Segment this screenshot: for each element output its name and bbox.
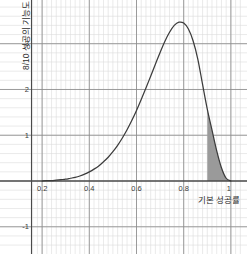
y-tick-label: 2 bbox=[25, 85, 29, 94]
y-tick-label: -1 bbox=[22, 222, 29, 231]
chart-container: 0.20.40.60.81 -1123 기본 성공률8/10 성공의 기능도 bbox=[0, 0, 247, 254]
y-axis-title: 8/10 성공의 기능도 bbox=[21, 1, 31, 70]
x-tick-label: 0.4 bbox=[84, 184, 94, 193]
x-tick-label: 0.6 bbox=[131, 184, 141, 193]
x-tick-label: 1 bbox=[227, 184, 231, 193]
shaded-area bbox=[207, 109, 231, 181]
x-axis-title: 기본 성공률 bbox=[198, 195, 240, 205]
chart-svg: 0.20.40.60.81 -1123 기본 성공률8/10 성공의 기능도 bbox=[0, 0, 247, 254]
x-tick-label: 0.8 bbox=[178, 184, 188, 193]
y-tick-label: 1 bbox=[25, 131, 29, 140]
x-tick-label: 0.2 bbox=[37, 184, 47, 193]
